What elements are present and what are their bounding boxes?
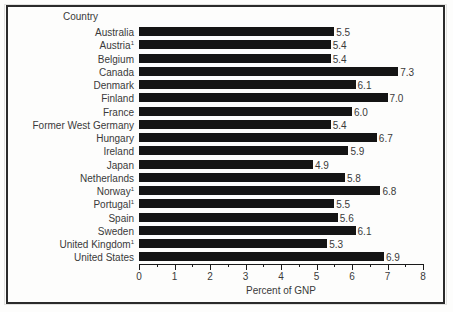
category-label: Former West Germany [33,120,135,131]
bar [139,226,356,235]
category-label: Norway1 [97,186,134,197]
bar-row: Netherlands5.8 [0,172,453,185]
bar-row: Canada7.3 [0,66,453,79]
bar [139,93,388,102]
bar [139,67,398,76]
bar [139,133,377,142]
category-label: Spain [108,213,134,224]
bar-row: Belgium5.4 [0,53,453,66]
category-label: Hungary [96,133,134,144]
x-tick-major [352,264,353,270]
value-label: 6.7 [379,133,393,144]
x-tick-major [175,264,176,270]
value-label: 5.9 [350,146,364,157]
value-label: 6.1 [358,226,372,237]
category-label: Australia [95,27,134,38]
bar [139,160,313,169]
x-tick-label: 2 [207,271,213,282]
value-label: 5.8 [347,173,361,184]
footnote-marker: 1 [131,199,134,205]
x-tick-minor [299,264,300,267]
category-label: France [103,107,134,118]
category-label: Netherlands [80,173,134,184]
bar-row: Finland7.0 [0,92,453,105]
bar [139,40,331,49]
bar [139,199,334,208]
bar-row: France6.0 [0,106,453,119]
bar-row: Spain5.6 [0,212,453,225]
footnote-marker: 1 [131,40,134,46]
bar-row: Ireland5.9 [0,145,453,158]
bar-row: Former West Germany5.4 [0,119,453,132]
chart-figure: Country Australia5.5Austria15.4Belgium5.… [0,0,453,312]
x-tick-label: 1 [172,271,178,282]
category-label: Portugal1 [93,199,134,210]
bar [139,213,338,222]
x-tick-label: 4 [278,271,284,282]
x-axis-title: Percent of GNP [246,285,316,296]
value-label: 4.9 [315,160,329,171]
x-tick-minor [228,264,229,267]
x-tick-major [246,264,247,270]
x-tick-major [210,264,211,270]
bar [139,186,380,195]
x-tick-minor [192,264,193,267]
footnote-marker: 1 [131,239,134,245]
category-label: United Kingdom1 [60,239,135,250]
footnote-marker: 1 [131,186,134,192]
value-label: 6.9 [386,252,400,263]
category-label: Ireland [103,146,134,157]
x-tick-major [281,264,282,270]
category-label: Belgium [98,54,134,65]
value-label: 5.4 [333,120,347,131]
bar [139,146,348,155]
bar-row: Austria15.4 [0,39,453,52]
value-label: 6.0 [354,107,368,118]
x-tick-major [317,264,318,270]
category-label: Sweden [98,226,134,237]
category-label: Japan [107,160,134,171]
value-label: 6.8 [382,186,396,197]
x-tick-label: 0 [136,271,142,282]
bar-row: United States6.9 [0,251,453,264]
bar [139,107,352,116]
x-tick-major [139,264,140,270]
category-label: Denmark [93,80,134,91]
bar-row: Australia5.5 [0,26,453,39]
bar [139,252,384,261]
x-tick-label: 3 [243,271,249,282]
bar [139,239,327,248]
x-tick-label: 5 [314,271,320,282]
country-axis-header: Country [63,11,98,22]
category-label: Canada [99,67,134,78]
bar-row: Portugal15.5 [0,198,453,211]
value-label: 5.6 [340,213,354,224]
x-tick-minor [334,264,335,267]
bar [139,120,331,129]
x-tick-minor [263,264,264,267]
bar-row: Norway16.8 [0,185,453,198]
value-label: 5.4 [333,40,347,51]
bar-row: United Kingdom15.3 [0,238,453,251]
x-tick-minor [370,264,371,267]
value-label: 5.3 [329,239,343,250]
x-tick-label: 6 [349,271,355,282]
bar [139,54,331,63]
x-tick-label: 7 [385,271,391,282]
category-label: United States [74,252,134,263]
bar-row: Hungary6.7 [0,132,453,145]
value-label: 5.5 [336,27,350,38]
bar-row: Denmark6.1 [0,79,453,92]
bar-row: Sweden6.1 [0,225,453,238]
value-label: 5.4 [333,54,347,65]
value-label: 5.5 [336,199,350,210]
x-tick-minor [157,264,158,267]
x-tick-label: 8 [420,271,426,282]
x-tick-major [423,264,424,270]
x-tick-major [388,264,389,270]
value-label: 7.3 [400,67,414,78]
x-tick-minor [405,264,406,267]
bar [139,27,334,36]
category-label: Finland [101,93,134,104]
bar [139,80,356,89]
